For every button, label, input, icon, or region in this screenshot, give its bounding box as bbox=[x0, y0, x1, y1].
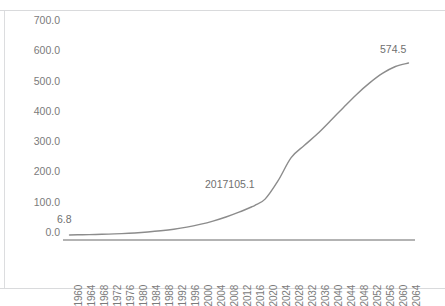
x-axis-tick-2036: 2036 bbox=[321, 285, 331, 306]
x-axis-tick-2008: 2008 bbox=[230, 285, 240, 306]
x-axis-tick-1964: 1964 bbox=[87, 285, 97, 306]
x-axis-tick-1984: 1984 bbox=[152, 285, 162, 306]
x-axis-tick-2052: 2052 bbox=[373, 285, 383, 306]
x-axis-tick-2040: 2040 bbox=[334, 285, 344, 306]
x-axis-tick-1960: 1960 bbox=[74, 285, 84, 306]
plot-area bbox=[63, 25, 415, 237]
x-axis-baseline bbox=[63, 239, 415, 241]
x-axis-tick-1980: 1980 bbox=[139, 285, 149, 306]
data-label-end: 574.5 bbox=[380, 44, 406, 55]
x-axis-tick-2056: 2056 bbox=[386, 285, 396, 306]
x-axis-tick-2060: 2060 bbox=[399, 285, 409, 306]
x-axis-tick-1996: 1996 bbox=[191, 285, 201, 306]
y-axis-tick-200.0: 200.0 bbox=[12, 166, 60, 177]
line-series-path bbox=[70, 63, 409, 235]
y-axis-tick-300.0: 300.0 bbox=[12, 136, 60, 147]
x-axis-tick-1976: 1976 bbox=[126, 285, 136, 306]
x-axis-tick-2016: 2016 bbox=[256, 285, 266, 306]
x-axis-tick-2032: 2032 bbox=[308, 285, 318, 306]
line-series-svg bbox=[63, 25, 415, 237]
x-axis-tick-2020: 2020 bbox=[269, 285, 279, 306]
top-divider bbox=[0, 10, 445, 11]
data-label-mid: 2017105.1 bbox=[205, 179, 255, 190]
left-border bbox=[4, 11, 5, 288]
y-axis-tick-500.0: 500.0 bbox=[12, 76, 60, 87]
x-axis-tick-1992: 1992 bbox=[178, 285, 188, 306]
x-axis-tick-1972: 1972 bbox=[113, 285, 123, 306]
y-axis-tick-100.0: 100.0 bbox=[12, 197, 60, 208]
x-axis-tick-1968: 1968 bbox=[100, 285, 110, 306]
y-axis-tick-0.0: 0.0 bbox=[12, 227, 60, 238]
x-axis-tick-2064: 2064 bbox=[412, 285, 422, 306]
x-axis-tick-2044: 2044 bbox=[347, 285, 357, 306]
x-axis-tick-2028: 2028 bbox=[295, 285, 305, 306]
x-axis-tick-2012: 2012 bbox=[243, 285, 253, 306]
data-label-start: 6.8 bbox=[57, 214, 72, 225]
x-axis-tick-1988: 1988 bbox=[165, 285, 175, 306]
y-axis-tick-600.0: 600.0 bbox=[12, 45, 60, 56]
x-axis-tick-2004: 2004 bbox=[217, 285, 227, 306]
y-axis-tick-700.0: 700.0 bbox=[12, 15, 60, 26]
y-axis: 700.0600.0500.0400.0300.0200.0100.00.0 bbox=[12, 20, 60, 240]
x-axis-tick-2000: 2000 bbox=[204, 285, 214, 306]
x-axis-tick-2024: 2024 bbox=[282, 285, 292, 306]
x-axis: 1960196419681972197619801984198819921996… bbox=[63, 243, 415, 287]
x-axis-tick-2048: 2048 bbox=[360, 285, 370, 306]
y-axis-tick-400.0: 400.0 bbox=[12, 106, 60, 117]
